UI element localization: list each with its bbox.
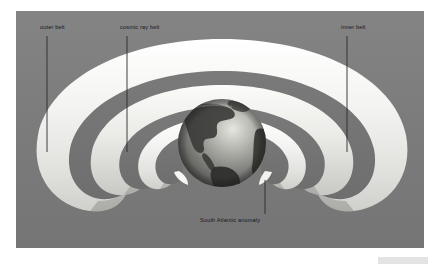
- figure-canvas: outer belt cosmic ray belt inner belt So…: [0, 0, 438, 269]
- van-allen-belts-illustration: [16, 11, 424, 248]
- label-outer-belt: outer belt: [40, 25, 65, 31]
- caption-chip: [378, 257, 428, 264]
- label-inner-belt: inner belt: [341, 25, 366, 31]
- label-cosmic-ray-belt: cosmic ray belt: [120, 25, 160, 31]
- illustration-plate: [16, 11, 424, 248]
- label-south-atlantic-anomaly: South Atlantic anomaly: [200, 218, 260, 224]
